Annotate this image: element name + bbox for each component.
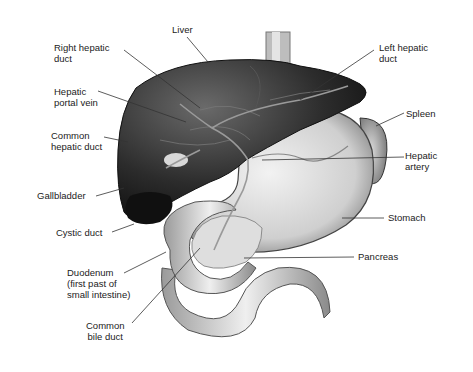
label-common-bile-duct: Common bile duct [86,320,125,342]
label-gallbladder: Gallbladder [37,190,86,201]
label-hepatic-portal-vein: Hepatic portal vein [54,86,98,108]
label-stomach: Stomach [388,212,426,223]
label-pancreas: Pancreas [358,251,398,262]
label-duodenum: Duodenum (first past of small intestine) [67,267,130,300]
label-left-hepatic-duct: Left hepatic duct [379,42,428,64]
label-common-hepatic-duct: Common hepatic duct [51,130,102,152]
label-right-hepatic-duct: Right hepatic duct [54,42,109,64]
label-cystic-duct: Cystic duct [56,227,102,238]
label-hepatic-artery: Hepatic artery [405,150,437,172]
label-liver: Liver [172,24,193,35]
label-spleen: Spleen [406,108,436,119]
